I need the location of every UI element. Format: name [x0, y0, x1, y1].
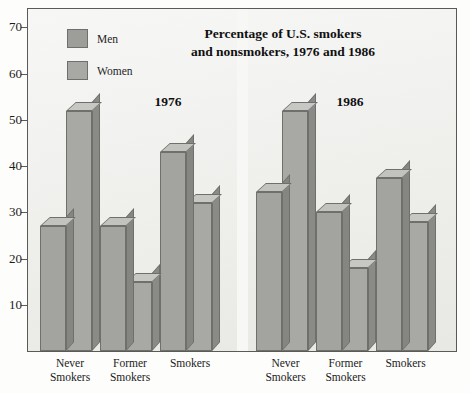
bar-1986-former-smokers-men — [316, 212, 342, 351]
y-tick-label: 50 — [9, 112, 22, 128]
y-tick-mark — [21, 305, 28, 306]
bar-side — [126, 208, 134, 351]
bar-1976-former-smokers-men — [100, 226, 126, 351]
x-label-line-2: Smokers — [265, 370, 305, 384]
y-tick-mark — [21, 166, 28, 167]
bar-1976-smokers-men — [160, 152, 186, 351]
x-label-line-1: Smokers — [170, 356, 210, 370]
bar-face — [100, 226, 126, 351]
y-tick-mark — [21, 74, 28, 75]
y-tick-label: 10 — [9, 297, 22, 313]
x-axis-group-label: Smokers — [170, 356, 210, 370]
chart-title: Percentage of U.S. smokers and nonsmoker… — [158, 25, 408, 61]
bar-face — [316, 212, 342, 351]
x-label-line-1: Never — [50, 356, 90, 370]
panel-label-1986: 1986 — [337, 94, 364, 110]
bar-side — [66, 208, 74, 351]
x-label-line-1: Former — [325, 356, 365, 370]
bar-face — [376, 178, 402, 351]
bar-face — [40, 226, 66, 351]
bar-face — [160, 152, 186, 351]
x-label-line-2: Smokers — [50, 370, 90, 384]
bar-side — [282, 174, 290, 351]
chart-title-line-1: Percentage of U.S. smokers — [158, 25, 408, 43]
y-tick-label: 30 — [9, 204, 22, 220]
x-label-line-1: Smokers — [385, 356, 425, 370]
chart-title-line-2: and nonsmokers, 1976 and 1986 — [158, 43, 408, 61]
bar-side — [342, 194, 350, 351]
y-tick-label: 70 — [9, 19, 22, 35]
legend: Men Women — [67, 29, 132, 93]
legend-label-men: Men — [97, 33, 118, 45]
y-tick-label: 60 — [9, 66, 22, 82]
legend-swatch-women-icon — [67, 61, 88, 80]
y-tick-mark — [21, 120, 28, 121]
x-axis-group-label: FormerSmokers — [325, 356, 365, 385]
legend-swatch-men-icon — [67, 29, 88, 48]
legend-label-women: Women — [97, 65, 132, 77]
y-tick-mark — [21, 259, 28, 260]
panel-label-1976: 1976 — [155, 94, 182, 110]
x-axis-group-label: NeverSmokers — [265, 356, 305, 385]
legend-item-women: Women — [67, 61, 132, 80]
x-axis-group-label: Smokers — [385, 356, 425, 370]
x-axis-group-label: NeverSmokers — [50, 356, 90, 385]
bar-side — [92, 93, 100, 351]
bar-side — [212, 185, 220, 351]
y-tick-label: 40 — [9, 158, 22, 174]
x-axis-group-label: FormerSmokers — [110, 356, 150, 385]
bar-side — [186, 134, 194, 351]
plot-area: 10203040506070 Men Women Percentage of U… — [27, 8, 457, 352]
x-label-line-1: Former — [110, 356, 150, 370]
bar-side — [428, 204, 436, 351]
bar-1986-never-smokers-men — [256, 192, 282, 351]
x-label-line-2: Smokers — [325, 370, 365, 384]
bar-side — [308, 93, 316, 351]
x-label-line-2: Smokers — [110, 370, 150, 384]
bar-side — [402, 160, 410, 351]
x-label-line-1: Never — [265, 356, 305, 370]
y-tick-mark — [21, 27, 28, 28]
legend-item-men: Men — [67, 29, 132, 48]
bar-1976-never-smokers-men — [40, 226, 66, 351]
y-tick-label: 20 — [9, 251, 22, 267]
y-tick-mark — [21, 212, 28, 213]
smokers-bar-chart-figure: 10203040506070 Men Women Percentage of U… — [0, 0, 470, 393]
bar-1986-smokers-men — [376, 178, 402, 351]
bar-face — [256, 192, 282, 351]
